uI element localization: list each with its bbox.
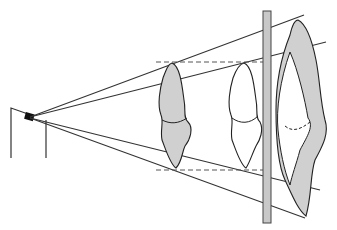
object-shaded (159, 63, 191, 168)
xray-projection-diagram (0, 0, 337, 230)
object-outline (229, 63, 262, 168)
detector-plate (263, 11, 271, 223)
